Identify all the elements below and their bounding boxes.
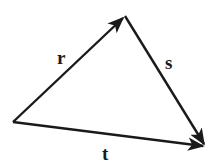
vector-s	[125, 16, 204, 144]
vector-r-label: r	[57, 47, 66, 68]
vector-s-label: s	[165, 52, 172, 73]
vector-s-arrow	[125, 16, 204, 144]
vector-triangle-diagram: r s t	[0, 0, 215, 165]
vector-t-label: t	[102, 143, 109, 164]
vector-r-arrow	[13, 18, 123, 122]
vector-r	[13, 18, 123, 122]
